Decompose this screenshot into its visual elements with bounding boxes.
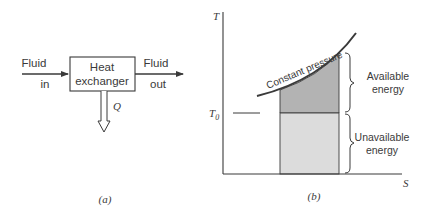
heat-exchanger-label-2: exchanger	[75, 75, 129, 87]
heat-out-arrow	[98, 91, 110, 132]
fluid-in-label-2: in	[41, 78, 50, 90]
available-energy-label-2: energy	[372, 83, 405, 95]
panel-a-caption: (a)	[99, 193, 112, 206]
y-axis-label: T	[213, 10, 220, 22]
unavailable-energy-region	[280, 113, 339, 174]
fluid-out-label: Fluid	[144, 57, 169, 69]
heat-exchanger-label: Heat	[90, 61, 115, 73]
fluid-in-label: Fluid	[22, 57, 47, 69]
heat-q-label: Q	[113, 100, 121, 112]
available-energy-label: Available	[367, 70, 410, 82]
panel-a-heat-exchanger: Fluid in Heat exchanger Fluid out Q (a)	[22, 57, 183, 206]
panel-b-ts-diagram: T S T0 Constant pressure Available energ…	[209, 10, 410, 203]
t0-label: T0	[209, 107, 219, 122]
panel-b-caption: (b)	[308, 190, 321, 203]
unavailable-energy-label-2: energy	[366, 144, 399, 156]
unavailable-brace	[345, 114, 354, 173]
unavailable-energy-label: Unavailable	[355, 131, 410, 143]
x-axis-label: S	[403, 177, 409, 189]
fluid-out-label-2: out	[150, 78, 167, 90]
available-brace	[345, 53, 354, 112]
